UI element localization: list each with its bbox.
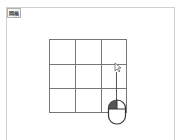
pointer-cursor-icon: [115, 63, 121, 72]
interaction-overlay: [0, 0, 178, 140]
mouse-left-click-icon: [109, 100, 126, 124]
